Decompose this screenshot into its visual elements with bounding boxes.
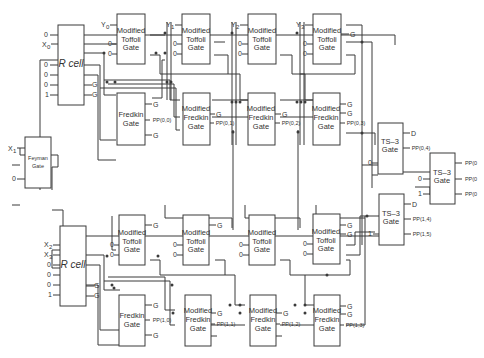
svg-text:1: 1 [45,91,49,98]
svg-text:PP(1,4): PP(1,4) [413,216,432,222]
svg-text:Modified: Modified [184,306,212,315]
mt-gate-y1: Modified Toffoli Gate Y 1 0 0 [166,14,210,64]
ts3-gate-top: TS–3 Gate D PP(0,4) 0 [368,123,430,174]
svg-text:G: G [153,222,158,229]
svg-text:0: 0 [106,24,110,30]
svg-text:Fredkin: Fredkin [314,315,339,324]
svg-text:PP(1,1): PP(1,1) [217,321,236,327]
svg-text:G: G [94,282,99,289]
svg-text:D: D [412,201,417,208]
svg-text:Gate: Gate [188,245,204,254]
svg-text:PP(1,3): PP(1,3) [346,322,365,328]
svg-text:0: 0 [239,251,243,258]
svg-text:0: 0 [108,50,112,57]
svg-text:0: 0 [239,241,243,248]
svg-text:Modified: Modified [313,26,341,35]
svg-text:Fredkin: Fredkin [185,315,210,324]
svg-text:Fredkin: Fredkin [250,315,275,324]
svg-text:1: 1 [48,291,52,298]
svg-text:PP(0,4): PP(0,4) [412,145,431,151]
svg-text:Modified: Modified [182,228,210,237]
svg-text:Gate: Gate [319,324,335,333]
svg-text:2: 2 [236,24,240,30]
svg-text:PP(0: PP(0 [465,176,477,182]
svg-text:0: 0 [418,175,422,182]
svg-text:0: 0 [173,50,177,57]
fredkin-gate-bottom: Fredkin Gate G PP(1,0) G [119,295,171,346]
svg-text:G: G [92,81,97,88]
mf-gate-11: Modified Fredkin Gate G PP(1,1) [184,295,236,346]
svg-text:R cell: R cell [60,259,86,270]
mf-gate-12: Modified Fredkin Gate G PP(1,2) [249,295,301,346]
svg-text:G: G [347,101,352,108]
svg-text:G: G [153,332,158,339]
svg-text:Modified: Modified [248,228,276,237]
svg-text:0: 0 [303,40,307,47]
fredkin-gate-top: Fredkin Gate G PP(0,0) G [117,93,171,145]
svg-text:G: G [217,310,222,317]
svg-text:0: 0 [47,261,51,268]
svg-text:0: 0 [108,40,112,47]
ts3-gate-final: TS–3 Gate 0 1 PP(0 PP(0 PP(0 [403,153,477,204]
svg-text:G: G [347,222,352,229]
svg-text:PP(1,0): PP(1,0) [153,317,172,323]
mf-gate-02: Modified Fredkin Gate G PP(0,2) [247,93,301,145]
mt-gate-bottom-4: Modified Toffoli Gate G G 0 0 [303,214,352,264]
svg-text:PP(0,1): PP(0,1) [216,120,235,126]
svg-text:PP(0: PP(0 [465,191,477,197]
mf-gate-03: Modified Fredkin Gate G G PP(0,3) [312,93,366,145]
svg-text:Gate: Gate [32,163,44,169]
svg-text:Gate: Gate [254,43,270,52]
svg-text:0: 0 [303,50,307,57]
svg-text:2: 2 [49,244,53,250]
mt-gate-bottom-1: Modified Toffoli Gate G 0 0 [110,215,158,265]
svg-text:G: G [282,111,287,118]
svg-text:PP(1,2): PP(1,2) [282,321,301,327]
svg-text:1: 1 [171,24,175,30]
svg-text:Modified: Modified [182,26,210,35]
svg-text:Modified: Modified [182,104,210,113]
svg-text:G: G [347,231,352,238]
svg-text:G: G [217,222,222,229]
svg-text:G: G [347,110,352,117]
svg-text:Gate: Gate [188,122,204,131]
svg-text:Gate: Gate [124,320,140,329]
svg-text:G: G [347,303,352,310]
svg-text:G: G [153,101,158,108]
ts3-gate-bottom: TS–3 Gate D PP(1,4) PP(1,5) 1 [368,194,431,245]
svg-text:Feyman: Feyman [28,155,48,161]
mt-gate-y2: Modified Toffoli Gate Y 2 0 0 [231,14,276,64]
svg-text:Modified: Modified [247,104,275,113]
svg-text:Gate: Gate [190,324,206,333]
svg-text:Fredkin: Fredkin [119,311,144,320]
svg-text:G: G [350,31,355,38]
svg-text:R cell: R cell [58,58,84,69]
mt-gate-bottom-3: Modified Toffoli Gate 0 0 [239,215,276,265]
svg-text:D: D [411,130,416,137]
svg-text:0: 0 [173,40,177,47]
svg-text:Gate: Gate [124,245,140,254]
svg-text:0: 0 [44,71,48,78]
svg-text:G: G [94,292,99,299]
mf-gate-13: Modified Fredkin Gate G G PP(1,3) [313,295,365,346]
svg-text:G: G [92,91,97,98]
svg-text:Modified: Modified [313,306,341,315]
multiplier-circuit-diagram: 0 X 0 0 0 0 1 R cell G G Modified Toffol… [0,0,484,358]
svg-text:PP(0,3): PP(0,3) [347,120,366,126]
svg-text:Modified: Modified [312,227,340,236]
svg-text:0: 0 [110,251,114,258]
svg-text:Gate: Gate [383,217,399,226]
svg-text:G: G [347,311,352,318]
svg-text:Fredkin: Fredkin [118,110,143,119]
svg-text:0: 0 [47,281,51,288]
svg-text:Gate: Gate [319,43,335,52]
svg-text:PP(0: PP(0 [465,160,477,166]
svg-text:0: 0 [368,159,372,166]
svg-text:0: 0 [173,241,177,248]
svg-text:Fredkin: Fredkin [313,113,338,122]
svg-text:Gate: Gate [253,122,269,131]
svg-text:1: 1 [368,230,372,237]
svg-text:G: G [216,111,221,118]
svg-text:0: 0 [44,31,48,38]
svg-text:1: 1 [418,190,422,197]
